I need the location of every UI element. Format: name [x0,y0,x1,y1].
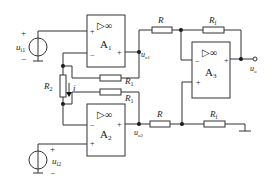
a1-output-sign: + [117,48,122,57]
a3-symbol: ▷∞ [202,47,217,58]
resistor-r-top [152,27,172,33]
r-top-label: R [157,15,164,25]
ui2-plus-sign: + [50,144,55,154]
uo2-label: uo2 [134,128,144,138]
a2-output-sign: + [117,120,122,129]
a1-plus-input: + [90,27,95,36]
r-bottom-label: R [156,109,163,119]
r2-label: R2 [43,81,53,92]
resistor-r2 [60,75,66,97]
circuit-diagram: + − ui1 + − + ▷∞ A1 uo1 R1 R2 i R1 − + +… [0,0,276,186]
r1-bottom-label: R1 [124,93,134,104]
resistor-r1-bottom [100,89,121,95]
voltage-source-ui1 [29,31,87,61]
ui2-label: ui2 [52,156,61,167]
a3-minus-input: − [195,57,200,66]
rf-top-label: Rf [208,15,217,26]
resistor-r-bottom [150,121,170,127]
ui1-label: ui1 [16,42,25,53]
resistor-rf-bottom [204,121,225,127]
ui2-minus-sign: − [50,168,55,178]
a1-symbol: ▷∞ [97,20,112,31]
a1-minus-input: − [90,51,95,60]
a3-output-sign: + [224,56,229,65]
resistor-rf-top [203,27,224,33]
ui1-minus-sign: − [21,54,26,64]
a2-minus-input: − [90,121,95,130]
a3-plus-input: + [196,78,201,87]
a2-symbol: ▷∞ [97,109,112,120]
uo1-label: uo1 [141,50,151,60]
uo-label: uo [250,64,257,74]
resistor-r1-top [100,75,121,81]
rf-bottom-label: Rf [209,109,218,120]
a2-plus-input: + [90,139,95,148]
voltage-source-ui2 [29,151,47,173]
ui1-plus-sign: + [21,28,26,38]
output-terminal [253,57,257,61]
